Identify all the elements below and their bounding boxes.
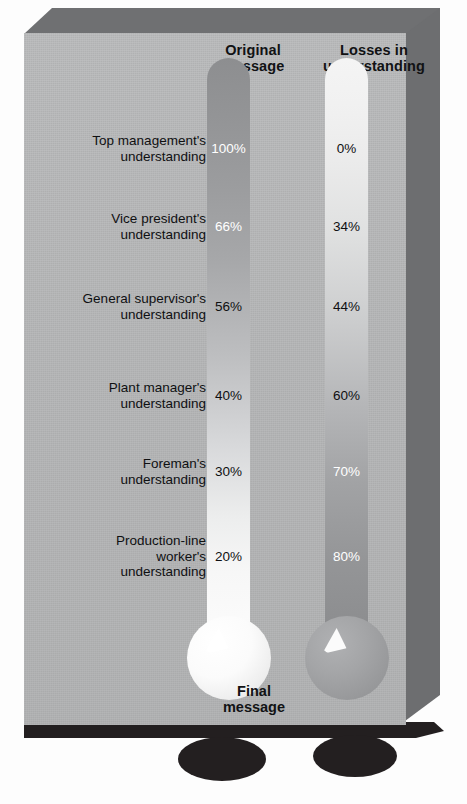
row-label: Top management'sunderstanding [31, 133, 206, 164]
value-losses-in-understanding: 34% [325, 219, 368, 234]
value-losses-in-understanding: 80% [325, 549, 368, 564]
value-original-message: 20% [207, 549, 250, 564]
header-line-1: Original [198, 42, 308, 58]
row-label-line-1: Plant manager's [31, 380, 206, 396]
panel-top-bevel [24, 8, 440, 34]
value-losses-in-understanding: 44% [325, 299, 368, 314]
final-line-1: Final [199, 683, 309, 699]
row-label: Foreman'sunderstanding [31, 456, 206, 487]
row-label-line-1: Top management's [31, 133, 206, 149]
value-original-message: 100% [207, 141, 250, 156]
row-label: General supervisor'sunderstanding [31, 291, 206, 322]
thermometer-bulb [305, 616, 389, 700]
row-label-line-2: worker's [31, 548, 206, 564]
floor-shadow-right [313, 735, 397, 777]
bulb-highlight [321, 628, 347, 654]
row-label-line-2: understanding [31, 226, 206, 242]
chart-panel: Original message Losses in understanding… [24, 33, 406, 725]
row-label-line-1: Production-line [31, 533, 206, 549]
value-original-message: 56% [207, 299, 250, 314]
row-label-line-1: General supervisor's [31, 291, 206, 307]
final-line-2: message [199, 699, 309, 715]
row-label: Plant manager'sunderstanding [31, 380, 206, 411]
row-label-line-2: understanding [31, 148, 206, 164]
value-losses-in-understanding: 60% [325, 388, 368, 403]
value-original-message: 40% [207, 388, 250, 403]
value-losses-in-understanding: 0% [325, 141, 368, 156]
row-label-line-2: understanding [31, 471, 206, 487]
row-label-line-2: understanding [31, 395, 206, 411]
final-message-label: Final message [199, 683, 309, 715]
value-original-message: 66% [207, 219, 250, 234]
row-label-line-1: Vice president's [31, 211, 206, 227]
row-label-line-2: understanding [31, 306, 206, 322]
header-line-1: Losses in [312, 42, 436, 58]
value-original-message: 30% [207, 464, 250, 479]
row-label: Vice president'sunderstanding [31, 211, 206, 242]
floor-shadow-left [178, 737, 266, 781]
row-label: Production-lineworker'sunderstanding [31, 533, 206, 580]
row-label-line-3: understanding [31, 564, 206, 580]
chart-canvas: Original message Losses in understanding… [0, 0, 467, 804]
panel-right-bevel [405, 8, 440, 721]
value-losses-in-understanding: 70% [325, 464, 368, 479]
row-label-line-1: Foreman's [31, 456, 206, 472]
bulb-highlight [203, 628, 229, 654]
